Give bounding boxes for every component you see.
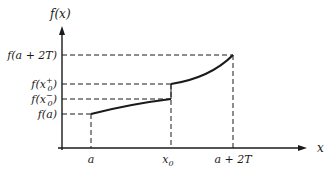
x-axis-label: x [317, 141, 324, 155]
x-axis-arrow-icon [298, 145, 307, 151]
tick-label-f-x0-plus: f(x+0) [30, 76, 57, 93]
tick-label-a: a [88, 153, 95, 166]
tick-label-a2T: a + 2T [214, 153, 253, 166]
tick-label-f-a: f(a) [37, 108, 57, 121]
periodic-function-jump-diagram: f(x) f(a + 2T) f(x+0) f(x−0) f(a) a x0 a… [0, 0, 329, 172]
y-axis-arrow-icon [59, 26, 65, 35]
curve-segment-right [171, 55, 233, 84]
y-axis-label: f(x) [49, 7, 71, 21]
tick-label-x0: x0 [162, 153, 173, 168]
tick-label-f-x0-minus: f(x−0) [30, 91, 57, 108]
tick-label-f-a2T: f(a + 2T) [6, 49, 57, 62]
curve-segment-left [91, 99, 171, 114]
